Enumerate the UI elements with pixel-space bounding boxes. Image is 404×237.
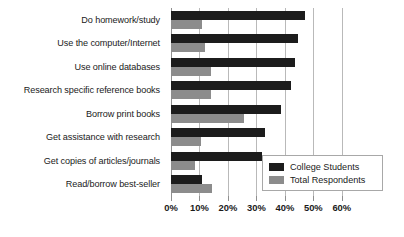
category-label: Read/borrow best-seller: [0, 173, 166, 197]
axis-tick-label: 10%: [190, 202, 209, 213]
bar-total-respondents: [171, 43, 205, 52]
bar-total-respondents: [171, 161, 195, 170]
category-axis: Do homework/studyUse the computer/Intern…: [0, 8, 166, 196]
bar-college-students: [171, 58, 295, 67]
bar-group: [171, 8, 356, 32]
bar-total-respondents: [171, 184, 212, 193]
axis-tick-mark: [199, 196, 200, 201]
legend-label-college-students: College Students: [290, 162, 359, 172]
axis-tick-label: 0%: [164, 202, 178, 213]
chart-legend: College Students Total Respondents: [262, 155, 383, 191]
axis-tick-label: 60%: [332, 202, 351, 213]
category-label: Use the computer/Internet: [0, 32, 166, 56]
axis-tick-label: 40%: [275, 202, 294, 213]
axis-tick-mark: [313, 196, 314, 201]
legend-label-total-respondents: Total Respondents: [290, 175, 365, 185]
axis-tick-label: 50%: [304, 202, 323, 213]
category-label: Get assistance with research: [0, 126, 166, 150]
bar-total-respondents: [171, 20, 202, 29]
axis-tick-mark: [171, 196, 172, 201]
bar-chart: Do homework/studyUse the computer/Intern…: [0, 0, 404, 237]
axis-tick-mark: [228, 196, 229, 201]
bar-total-respondents: [171, 114, 244, 123]
bar-college-students: [171, 175, 202, 184]
bar-college-students: [171, 34, 298, 43]
axis-tick-mark: [342, 196, 343, 201]
category-label: Get copies of articles/journals: [0, 149, 166, 173]
bar-college-students: [171, 105, 281, 114]
bar-college-students: [171, 152, 262, 161]
bar-group: [171, 32, 356, 56]
legend-swatch-icon-total-respondents: [269, 176, 284, 184]
category-label: Research specific reference books: [0, 79, 166, 103]
bar-group: [171, 102, 356, 126]
bar-total-respondents: [171, 137, 201, 146]
category-label: Borrow print books: [0, 102, 166, 126]
legend-swatch-icon-college-students: [269, 163, 284, 171]
bar-group: [171, 126, 356, 150]
axis-tick-mark: [256, 196, 257, 201]
value-axis: 0%10%20%30%40%50%60%: [171, 196, 356, 226]
axis-tick-label: 20%: [219, 202, 238, 213]
legend-item-total-respondents: Total Respondents: [269, 173, 376, 186]
bar-college-students: [171, 81, 291, 90]
category-label: Use online databases: [0, 55, 166, 79]
bar-college-students: [171, 11, 305, 20]
axis-tick-mark: [285, 196, 286, 201]
bar-group: [171, 55, 356, 79]
bar-group: [171, 79, 356, 103]
bar-total-respondents: [171, 67, 211, 76]
legend-item-college-students: College Students: [269, 160, 376, 173]
bar-total-respondents: [171, 90, 211, 99]
axis-tick-label: 30%: [247, 202, 266, 213]
bar-college-students: [171, 128, 265, 137]
category-label: Do homework/study: [0, 8, 166, 32]
